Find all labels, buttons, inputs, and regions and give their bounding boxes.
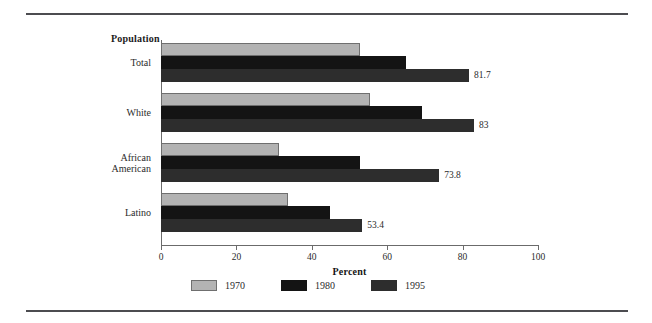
legend-swatch-icon: [371, 280, 397, 291]
x-tick: [463, 245, 464, 250]
bar-1980-latino: [161, 206, 330, 219]
legend-label: 1995: [405, 280, 425, 291]
bar-1970-african-american: [161, 143, 279, 156]
legend-label: 1970: [225, 280, 245, 291]
x-axis-line: [161, 245, 539, 246]
category-label-white: White: [41, 107, 151, 118]
bar-1995-african-american: [161, 169, 439, 182]
x-tick: [161, 245, 162, 250]
bottom-divider-rule: [26, 310, 628, 312]
legend-item-1970[interactable]: 1970: [191, 280, 245, 291]
bar-group: 81.7: [161, 43, 538, 82]
bar-group: 73.8: [161, 143, 538, 182]
bar-value-label: 83: [479, 119, 489, 132]
bar-1980-african-american: [161, 156, 360, 169]
plot-area: 020406080100 81.78373.853.4: [161, 40, 538, 245]
chart-legend: 197019801995: [191, 280, 461, 291]
category-label-african-american: AfricanAmerican: [41, 152, 151, 174]
x-tick-label: 40: [307, 252, 317, 262]
legend-label: 1980: [315, 280, 335, 291]
bar-chart-figure: Population 020406080100 81.78373.853.4 T…: [0, 18, 652, 306]
legend-item-1980[interactable]: 1980: [281, 280, 335, 291]
bar-1970-white: [161, 93, 370, 106]
bar-1970-latino: [161, 193, 288, 206]
bar-1980-white: [161, 106, 422, 119]
x-tick: [236, 245, 237, 250]
bar-value-label: 53.4: [367, 219, 384, 232]
bar-value-label: 73.8: [444, 169, 461, 182]
x-tick: [312, 245, 313, 250]
x-tick-label: 0: [159, 252, 164, 262]
x-tick-label: 100: [531, 252, 545, 262]
x-tick: [538, 245, 539, 250]
x-tick-label: 80: [458, 252, 468, 262]
legend-swatch-icon: [281, 280, 307, 291]
legend-item-1995[interactable]: 1995: [371, 280, 425, 291]
bar-1995-total: [161, 69, 469, 82]
bar-1970-total: [161, 43, 360, 56]
bar-1980-total: [161, 56, 406, 69]
population-legend-title: Population: [111, 33, 160, 44]
bar-group: 83: [161, 93, 538, 132]
x-tick-label: 60: [382, 252, 392, 262]
category-label-line: White: [41, 107, 151, 118]
bar-1995-white: [161, 119, 474, 132]
category-label-line: African: [41, 152, 151, 163]
category-label-line: Total: [41, 57, 151, 68]
x-tick: [387, 245, 388, 250]
bar-value-label: 81.7: [474, 69, 491, 82]
legend-swatch-icon: [191, 280, 217, 291]
category-label-latino: Latino: [41, 207, 151, 218]
category-label-line: Latino: [41, 207, 151, 218]
bar-1995-latino: [161, 219, 362, 232]
top-divider-rule: [26, 13, 628, 15]
category-label-total: Total: [41, 57, 151, 68]
x-axis-title: Percent: [161, 266, 538, 277]
bar-group: 53.4: [161, 193, 538, 232]
x-tick-label: 20: [232, 252, 242, 262]
category-label-line: American: [41, 163, 151, 174]
